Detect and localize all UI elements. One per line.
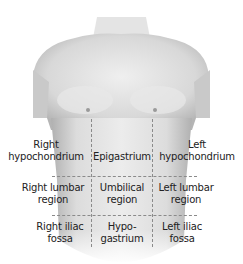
region-right-lumbar: Right lumbar region <box>18 182 88 206</box>
region-epigastrium: Epigastrium <box>93 151 151 163</box>
region-left-lumbar: Left lumbar region <box>154 182 218 206</box>
region-right-hypochondrium: Right hypochondrium <box>4 139 88 163</box>
left-midclavicular-line <box>91 119 92 247</box>
chest-shape <box>33 34 210 131</box>
region-left-iliac-fossa: Left iliac fossa <box>154 221 210 245</box>
subcostal-line <box>52 176 197 177</box>
region-umbilical: Umbilical region <box>93 182 151 206</box>
region-hypogastrium: Hypo- gastrium <box>93 221 151 245</box>
right-midclavicular-line <box>152 119 153 247</box>
region-left-hypochondrium: Left hypochondrium <box>154 139 240 163</box>
region-right-iliac-fossa: Right iliac fossa <box>30 221 90 245</box>
intertubercular-line <box>52 215 197 216</box>
